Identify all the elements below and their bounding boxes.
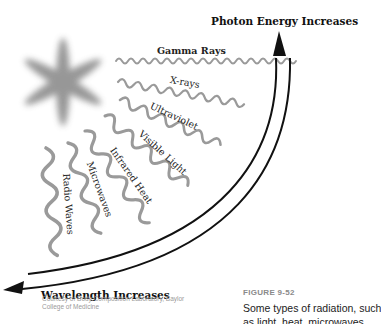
caption-line-1: Some types of radiation, such [243, 302, 381, 314]
arrow-left-icon [3, 281, 24, 294]
photon-energy-label: Photon Energy Increases [211, 15, 358, 27]
arrow-up-icon [273, 31, 286, 56]
caption-line-2-text: as light, heat, microwaves, [243, 318, 367, 324]
credit-text: Courtesy of Body Composition Laboratory,… [42, 295, 192, 311]
caption-line-2: as light, heat, microwaves, [243, 318, 367, 324]
figure-number: FIGURE 9-52 [243, 288, 295, 297]
wave-gamma-rays [116, 59, 296, 64]
wave-radio-waves [40, 147, 64, 256]
star-burst-icon [21, 38, 104, 126]
gamma-rays-label: Gamma Rays [157, 45, 226, 56]
